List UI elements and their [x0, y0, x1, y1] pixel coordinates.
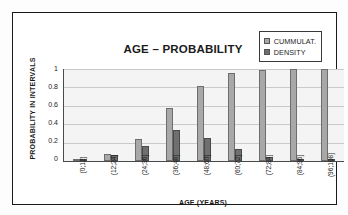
x-tick-label: (24;36] — [141, 155, 148, 176]
chart-frame: AGE – PROBABILITY CUMMULAT. DENSITY PROB… — [12, 12, 337, 205]
x-tick-cell: (72;84] — [250, 163, 281, 199]
bar-cummulat[interactable] — [197, 86, 204, 161]
chart-legend: CUMMULAT. DENSITY — [259, 31, 322, 62]
x-tick-cell: (0;12] — [63, 163, 94, 199]
legend-swatch-density — [264, 49, 270, 55]
bar-cummulat[interactable] — [321, 69, 328, 161]
x-tick-cell: (84;96] — [281, 163, 312, 199]
y-axis-title: PROBABILITY IN INTERVALS — [29, 49, 36, 169]
x-tick-label: (12;24] — [110, 155, 117, 176]
legend-label-density: DENSITY — [274, 48, 306, 57]
x-tick-label: (84;96] — [296, 155, 303, 176]
x-tick-label: (72;84] — [265, 155, 272, 176]
bar-group — [157, 69, 188, 161]
x-tick-label: (60;72] — [234, 155, 241, 176]
bar-cummulat[interactable] — [290, 69, 297, 161]
x-tick-cell: (24;36] — [125, 163, 156, 199]
x-tick-label: (96;108] — [327, 153, 334, 177]
x-axis-title: AGE (YEARS) — [63, 199, 343, 206]
bar-group — [313, 69, 344, 161]
y-tick-0-8: 0.8 — [36, 83, 58, 90]
x-tick-cell: (48;60] — [187, 163, 218, 199]
bar-group — [282, 69, 313, 161]
bar-cummulat[interactable] — [228, 73, 235, 161]
x-tick-cell: (96;108] — [312, 163, 343, 199]
bar-group — [64, 69, 95, 161]
legend-item-cummulat[interactable]: CUMMULAT. — [264, 36, 316, 46]
x-tick-label: (0;12] — [79, 157, 86, 174]
y-tick-0-2: 0.2 — [36, 137, 58, 144]
x-tick-cell: (36;48] — [156, 163, 187, 199]
chart-title: AGE – PROBABILITY — [93, 43, 273, 55]
bar-group — [251, 69, 282, 161]
x-tick-cell: (12;24] — [94, 163, 125, 199]
x-tick-label: (48;60] — [203, 155, 210, 176]
legend-label-cummulat: CUMMULAT. — [274, 37, 316, 46]
bar-cummulat[interactable] — [166, 108, 173, 161]
bar-group — [220, 69, 251, 161]
plot-area — [63, 69, 344, 162]
bar-group — [188, 69, 219, 161]
y-tick-0: 0 — [36, 155, 58, 162]
legend-swatch-cummulat — [264, 38, 270, 44]
bar-cummulat[interactable] — [259, 70, 266, 161]
legend-item-density[interactable]: DENSITY — [264, 47, 316, 57]
x-tick-cell: (60;72] — [219, 163, 250, 199]
x-tick-label: (36;48] — [172, 155, 179, 176]
y-tick-0-4: 0.4 — [36, 119, 58, 126]
bar-group — [95, 69, 126, 161]
bar-groups — [64, 69, 344, 161]
y-tick-1: 1 — [36, 65, 58, 72]
y-tick-0-6: 0.6 — [36, 101, 58, 108]
x-tick-labels: (0;12](12;24](24;36](36;48](48;60](60;72… — [63, 163, 343, 199]
bar-group — [126, 69, 157, 161]
chart-screenshot: AGE – PROBABILITY CUMMULAT. DENSITY PROB… — [0, 0, 348, 215]
